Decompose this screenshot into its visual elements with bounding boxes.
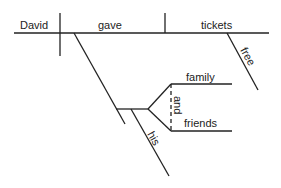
- indirect-object-diagonal: [74, 33, 125, 124]
- object-word: tickets: [201, 19, 233, 31]
- compound-word-family: family: [186, 71, 215, 83]
- fork-upper: [148, 84, 171, 109]
- subject-word: David: [20, 19, 48, 31]
- fork-lower: [148, 109, 171, 131]
- compound-word-friends: friends: [184, 117, 218, 129]
- modifier-word-his: his: [145, 129, 163, 148]
- sentence-diagram: David gave tickets free his family frien…: [0, 0, 281, 188]
- conjunction-word: and: [172, 96, 184, 114]
- modifier-word-free: free: [238, 45, 258, 67]
- verb-word: gave: [98, 19, 122, 31]
